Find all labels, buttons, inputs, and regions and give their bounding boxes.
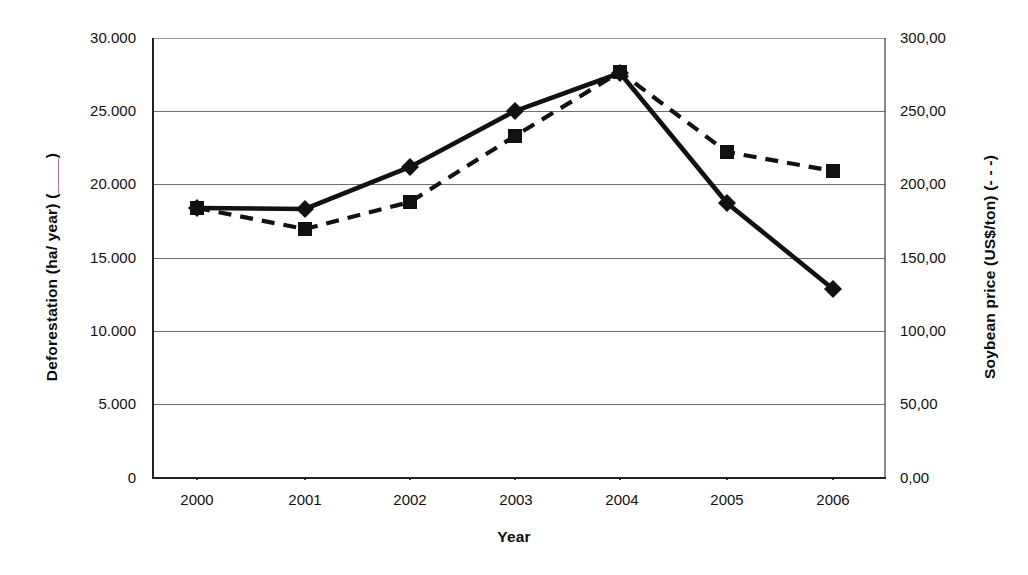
y-left-tick-25000: 25.000 bbox=[16, 103, 136, 119]
y-right-tick-250: 250,00 bbox=[900, 103, 1020, 119]
y-left-tick-15000: 15.000 bbox=[16, 250, 136, 266]
marker-diamond-2001 bbox=[296, 200, 314, 218]
series-deforestation-markers bbox=[188, 64, 842, 298]
y-left-tick-0: 0 bbox=[16, 470, 136, 486]
x-tick-2005: 2005 bbox=[667, 492, 787, 508]
y-axis-left-spine bbox=[152, 38, 153, 478]
y-left-tick-5000: 5.000 bbox=[16, 396, 136, 412]
y-right-tick-300: 300,00 bbox=[900, 30, 1020, 46]
chart-figure: Deforestation (ha/ year) (____) Soybean … bbox=[0, 0, 1028, 575]
y-left-tick-10000: 10.000 bbox=[16, 323, 136, 339]
x-tick-2001: 2001 bbox=[245, 492, 365, 508]
y-axis-right-title: Soybean price (US$/ton) (- - -) bbox=[981, 87, 999, 447]
y-right-tick-200: 200,00 bbox=[900, 176, 1020, 192]
plot-area bbox=[152, 38, 886, 478]
marker-square-2005 bbox=[720, 145, 734, 159]
y-axis-right-spine bbox=[885, 38, 886, 478]
marker-diamond-2003 bbox=[506, 102, 524, 120]
y-right-tick-50: 50,00 bbox=[900, 396, 1020, 412]
y-right-tick-0: 0,00 bbox=[900, 470, 1020, 486]
series-deforestation bbox=[188, 64, 842, 298]
x-tick-2002: 2002 bbox=[350, 492, 470, 508]
x-tick-2006: 2006 bbox=[773, 492, 893, 508]
marker-square-2006 bbox=[826, 164, 840, 178]
x-axis-spine bbox=[152, 478, 886, 480]
marker-square-2003 bbox=[508, 129, 522, 143]
x-tick-2004: 2004 bbox=[562, 492, 682, 508]
y-right-tick-150: 150,00 bbox=[900, 250, 1020, 266]
x-axis-title: Year bbox=[0, 528, 1028, 546]
marker-diamond-2002 bbox=[401, 158, 419, 176]
marker-square-2001 bbox=[298, 222, 312, 236]
y-right-tick-100: 100,00 bbox=[900, 323, 1020, 339]
x-tick-2003: 2003 bbox=[456, 492, 576, 508]
chart-svg bbox=[152, 38, 886, 480]
x-tick-2000: 2000 bbox=[137, 492, 257, 508]
series-soybean-price-line bbox=[197, 72, 833, 229]
y-left-tick-20000: 20.000 bbox=[16, 176, 136, 192]
marker-square-2002 bbox=[403, 195, 417, 209]
y-left-tick-30000: 30.000 bbox=[16, 30, 136, 46]
y-axis-left-title: Deforestation (ha/ year) (____) bbox=[43, 87, 61, 447]
